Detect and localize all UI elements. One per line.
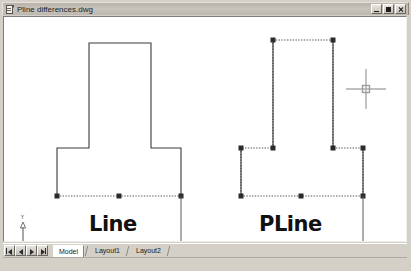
grip-square [361, 146, 366, 151]
maximize-button[interactable] [383, 4, 394, 14]
close-button[interactable] [395, 4, 406, 14]
cad-drawing-window: Pline differences.dwg [0, 0, 411, 271]
title-bar[interactable]: Pline differences.dwg [2, 2, 409, 15]
ucs-icon: Y X [14, 213, 54, 242]
layout-tab-strip: Model Layout1 Layout2 [3, 243, 407, 257]
grip-square [271, 38, 276, 43]
grip-square [239, 194, 244, 199]
window-title: Pline differences.dwg [17, 5, 93, 14]
tab-navigation-buttons [4, 245, 48, 256]
drawing-canvas[interactable]: Line PLine Y X [3, 16, 407, 242]
grip-square [299, 194, 304, 199]
ucs-x-label: X [48, 242, 52, 243]
layout-tabs: Model Layout1 Layout2 [53, 244, 172, 257]
pline-entity-group [239, 38, 366, 199]
crosshair-cursor [346, 69, 386, 109]
grip-square [331, 38, 336, 43]
status-bar [3, 257, 407, 268]
tab-divider [166, 245, 172, 257]
grip-square [331, 146, 336, 151]
line-solid-outline [57, 43, 181, 196]
tab-last-button[interactable] [37, 245, 48, 256]
tab-prev-button[interactable] [15, 245, 26, 256]
grip-square [271, 146, 276, 151]
tab-layout1[interactable]: Layout1 [90, 245, 125, 257]
grip-square [117, 194, 122, 199]
minimize-button[interactable] [371, 4, 382, 14]
pline-dashed-outline [241, 40, 363, 196]
cad-geometry [4, 17, 406, 241]
grip-square [55, 194, 60, 199]
dwg-document-icon [5, 5, 14, 14]
ucs-y-label: Y [20, 213, 25, 220]
tab-layout2[interactable]: Layout2 [131, 245, 166, 257]
tab-model[interactable]: Model [53, 245, 84, 257]
pline-label: PLine [259, 212, 322, 236]
tab-first-button[interactable] [4, 245, 15, 256]
window-controls [371, 4, 406, 14]
line-entity-group [55, 43, 184, 199]
grip-square [239, 146, 244, 151]
tab-next-button[interactable] [26, 245, 37, 256]
line-label: Line [89, 212, 137, 236]
